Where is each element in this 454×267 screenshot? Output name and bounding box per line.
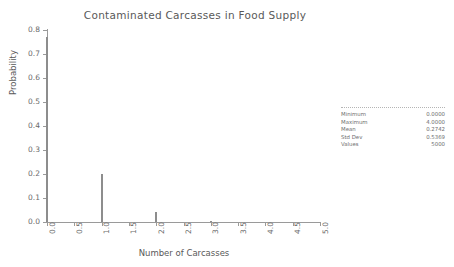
statistics-divider bbox=[341, 107, 445, 108]
plot-area bbox=[47, 30, 320, 222]
statistics-value: 0.0000 bbox=[426, 111, 445, 119]
x-axis-title: Number of Carcasses bbox=[47, 248, 321, 258]
y-tick-label: 0.8 bbox=[28, 25, 40, 34]
x-tick-label: 3.5 bbox=[239, 222, 248, 234]
statistics-value: 5000 bbox=[431, 141, 445, 149]
x-tick-label: 0.0 bbox=[48, 222, 57, 234]
bar bbox=[155, 212, 157, 222]
x-tick-label: 0.5 bbox=[75, 222, 84, 234]
x-tick-label: 5.0 bbox=[321, 222, 330, 234]
statistics-label: Values bbox=[341, 141, 359, 149]
bar bbox=[101, 174, 103, 222]
x-tick: 2.0 bbox=[156, 222, 157, 226]
statistics-label: Minimum bbox=[341, 111, 366, 119]
y-tick-label: 0.6 bbox=[28, 73, 40, 82]
x-tick: 1.0 bbox=[102, 222, 103, 226]
x-tick-label: 4.5 bbox=[293, 222, 302, 234]
y-tick-label: 0.1 bbox=[28, 193, 40, 202]
statistics-label: Maximum bbox=[341, 119, 368, 127]
y-tick-label: 0.0 bbox=[28, 217, 40, 226]
statistics-box: Minimum0.0000Maximum4.0000Mean0.2742Std … bbox=[341, 107, 445, 149]
x-tick-label: 4.0 bbox=[266, 222, 275, 234]
x-tick: 4.0 bbox=[265, 222, 266, 226]
y-axis-title: Probability bbox=[8, 50, 18, 95]
statistics-label: Std Dev bbox=[341, 134, 362, 142]
y-tick-label: 0.7 bbox=[28, 49, 40, 58]
x-tick-label: 1.0 bbox=[102, 222, 111, 234]
x-tick: 0.0 bbox=[47, 222, 48, 226]
statistics-row: Std Dev0.5369 bbox=[341, 134, 445, 142]
x-tick: 5.0 bbox=[320, 222, 321, 226]
statistics-value: 0.5369 bbox=[426, 134, 445, 142]
x-tick-label: 3.0 bbox=[211, 222, 220, 234]
x-tick: 4.5 bbox=[293, 222, 294, 226]
x-tick-label: 2.0 bbox=[157, 222, 166, 234]
x-tick-label: 1.5 bbox=[129, 222, 138, 234]
y-tick-label: 0.5 bbox=[28, 97, 40, 106]
statistics-value: 4.0000 bbox=[426, 119, 445, 127]
y-tick-label: 0.2 bbox=[28, 169, 40, 178]
x-tick: 3.5 bbox=[238, 222, 239, 226]
x-tick: 2.5 bbox=[184, 222, 185, 226]
x-tick-label: 2.5 bbox=[184, 222, 193, 234]
y-tick-label: 0.3 bbox=[28, 145, 40, 154]
statistics-row: Minimum0.0000 bbox=[341, 111, 445, 119]
statistics-label: Mean bbox=[341, 126, 356, 134]
statistics-value: 0.2742 bbox=[426, 126, 445, 134]
chart-title: Contaminated Carcasses in Food Supply bbox=[0, 9, 390, 21]
x-tick: 0.5 bbox=[74, 222, 75, 226]
statistics-row: Maximum4.0000 bbox=[341, 119, 445, 127]
bar bbox=[46, 37, 48, 222]
x-tick: 1.5 bbox=[129, 222, 130, 226]
x-tick: 3.0 bbox=[211, 222, 212, 226]
chart-figure: Contaminated Carcasses in Food Supply 0.… bbox=[0, 0, 454, 267]
y-tick-label: 0.4 bbox=[28, 121, 40, 130]
bar bbox=[210, 221, 212, 222]
statistics-row: Values5000 bbox=[341, 141, 445, 149]
statistics-rows: Minimum0.0000Maximum4.0000Mean0.2742Std … bbox=[341, 111, 445, 149]
statistics-row: Mean0.2742 bbox=[341, 126, 445, 134]
